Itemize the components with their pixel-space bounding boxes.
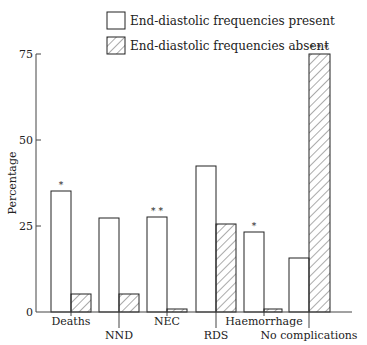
bar-nocomp-absent [309, 54, 330, 312]
y-tick-0: 0 [26, 306, 33, 319]
legend-swatch-absent [107, 37, 125, 54]
legend: End-diastolic frequencies present End-di… [107, 12, 335, 54]
bar-rds-present [196, 166, 216, 312]
x-label-nnd: NND [105, 329, 133, 342]
bar-nocomp-present [289, 258, 309, 312]
x-label-haemorrhage: Haemorrhage [225, 315, 302, 328]
y-tick-50: 50 [19, 134, 33, 147]
bar-nnd-present [99, 218, 119, 312]
y-tick-75: 75 [19, 48, 33, 61]
x-label-rds: RDS [204, 329, 229, 342]
bars [51, 54, 330, 312]
bar-rds-absent [216, 224, 236, 312]
y-axis: 0 25 50 75 Percentage [6, 48, 41, 319]
x-label-deaths: Deaths [51, 315, 90, 328]
x-label-no-complications: No complications [260, 329, 357, 342]
star-nec: * * [151, 206, 163, 216]
bar-deaths-present [51, 191, 71, 312]
legend-swatch-present [107, 12, 125, 29]
bar-deaths-absent [71, 294, 91, 312]
bar-nnd-absent [119, 294, 139, 312]
star-haemorrhage: * [252, 221, 257, 231]
bar-chart: End-diastolic frequencies present End-di… [0, 0, 367, 345]
y-axis-label: Percentage [6, 152, 19, 215]
bar-nec-present [147, 217, 167, 312]
star-deaths: * [59, 180, 64, 190]
significance-markers: * * * * * * * [59, 43, 329, 231]
x-label-nec: NEC [154, 315, 180, 328]
legend-label-present: End-diastolic frequencies present [130, 14, 335, 28]
y-tick-25: 25 [19, 220, 33, 233]
star-nocomp: * * * [309, 43, 329, 53]
bar-haemorrhage-present [244, 232, 264, 312]
x-labels: Deaths NND NEC RDS Haemorrhage No compli… [51, 315, 357, 342]
legend-label-absent: End-diastolic frequencies absent [130, 39, 329, 53]
